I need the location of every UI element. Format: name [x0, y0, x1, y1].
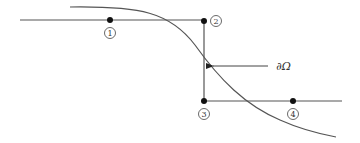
node-dot	[290, 98, 296, 104]
staircase-boundary-diagram: 1 2 3 4 ∂Ω	[0, 0, 360, 143]
node-dot	[107, 17, 113, 23]
node-label: 4	[290, 110, 295, 119]
node-dot	[201, 98, 207, 104]
node-label: 1	[107, 29, 112, 38]
node-dot	[201, 18, 207, 24]
boundary-label: ∂Ω	[276, 60, 291, 73]
node-label: 3	[201, 110, 206, 119]
node-label: 2	[213, 17, 218, 26]
